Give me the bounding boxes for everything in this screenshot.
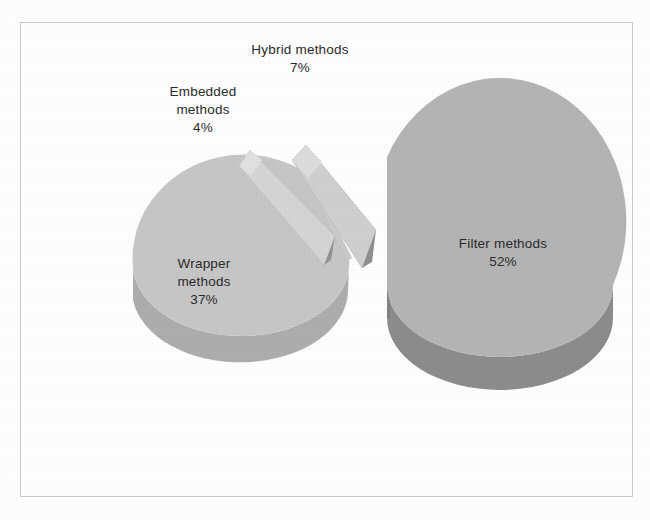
pie-label-wrapper-methods-name: Wrapper — [178, 256, 231, 271]
pie-label-hybrid-methods: Hybrid methods 7% — [210, 41, 390, 77]
pie-label-embedded-methods-name-cont: methods — [176, 102, 229, 117]
pie-label-hybrid-methods-name: Hybrid methods — [251, 42, 348, 57]
pie-label-hybrid-methods-value: 7% — [210, 59, 390, 77]
pie-label-embedded-methods-value: 4% — [142, 119, 264, 137]
pie-label-filter-methods: Filter methods 52% — [428, 235, 578, 271]
pie-slice-filter-methods[interactable] — [387, 78, 626, 390]
figure-root: Hybrid methods 7% Embedded methods 4% Wr… — [0, 0, 650, 520]
pie-label-embedded-methods-name: Embedded — [170, 84, 237, 99]
pie-label-filter-methods-name: Filter methods — [459, 236, 547, 251]
pie-label-embedded-methods: Embedded methods 4% — [142, 83, 264, 136]
pie-label-filter-methods-value: 52% — [428, 253, 578, 271]
pie-label-wrapper-methods-name-cont: methods — [177, 274, 230, 289]
pie-label-wrapper-methods: Wrapper methods 37% — [144, 255, 264, 308]
pie-slice-filter-methods-top — [387, 78, 626, 357]
pie-label-wrapper-methods-value: 37% — [144, 291, 264, 309]
